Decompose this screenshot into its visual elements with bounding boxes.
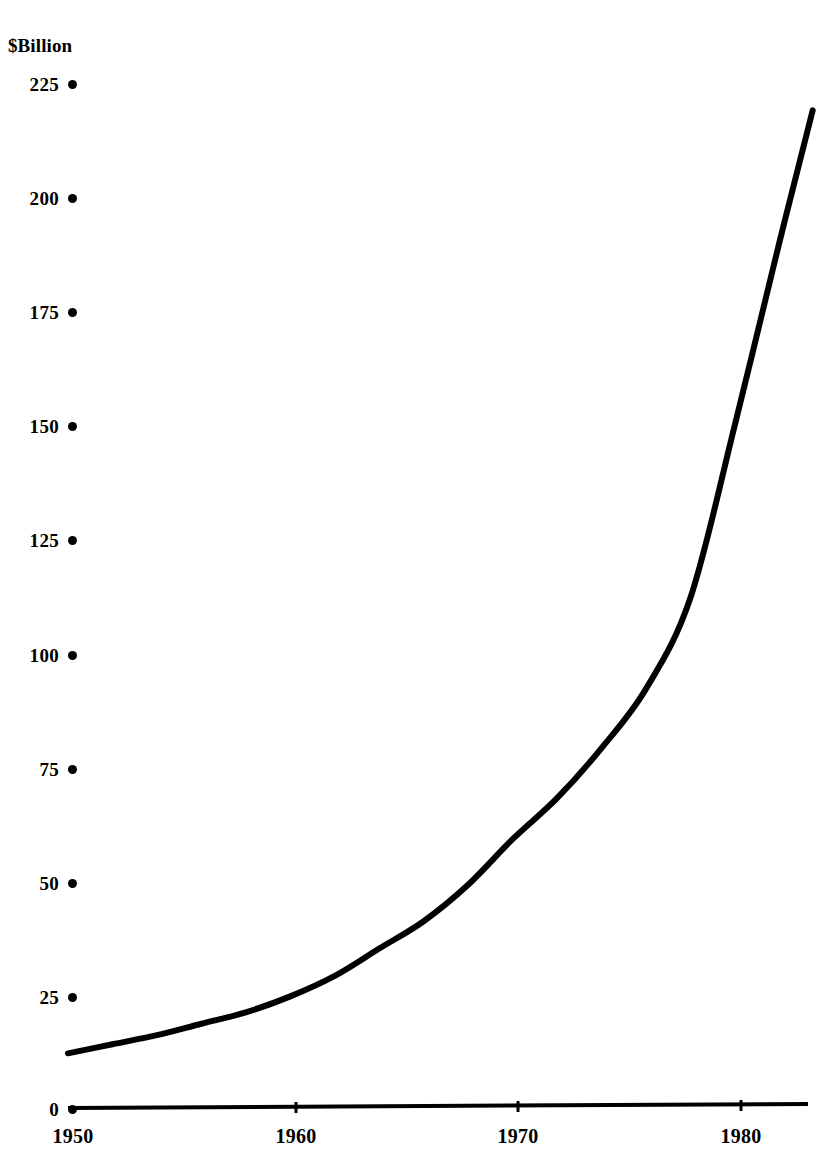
line-chart: $Billion 225 200 175 150 125 100 75 50 2… (0, 0, 827, 1164)
data-series-line (68, 110, 813, 1053)
chart-plot-area (0, 0, 827, 1164)
x-axis-line-group (68, 1100, 808, 1113)
x-axis-line (68, 1104, 808, 1108)
